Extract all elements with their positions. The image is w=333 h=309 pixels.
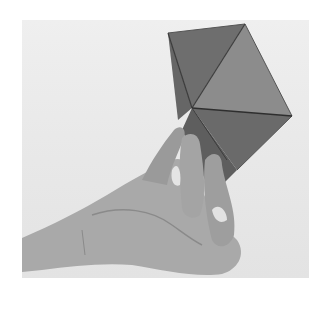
photograph: Grayscale photograph of a hand holding a… [22, 20, 309, 278]
photo-illustration [22, 20, 309, 278]
